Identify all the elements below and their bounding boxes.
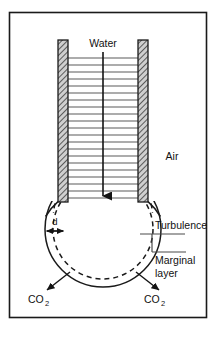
label-marginal-layer-line1: Marginal bbox=[155, 254, 195, 266]
label-marginal-layer-line2: layer bbox=[155, 267, 178, 279]
figure-diagram: Water Air Turbulence Marginal layer d CO… bbox=[0, 0, 219, 337]
diagram-canvas: Water Air Turbulence Marginal layer d CO… bbox=[0, 0, 219, 337]
label-co2-left-text: CO bbox=[28, 293, 44, 305]
label-co2-left-subscript: 2 bbox=[45, 299, 49, 308]
label-turbulence: Turbulence bbox=[155, 219, 207, 231]
label-co2-right-text: CO bbox=[144, 293, 160, 305]
label-co2-right-subscript: 2 bbox=[161, 299, 165, 308]
label-air: Air bbox=[166, 150, 179, 162]
label-thickness-d: d bbox=[52, 216, 57, 227]
label-water: Water bbox=[89, 37, 117, 49]
tube-right-wall bbox=[138, 40, 148, 202]
tube-left-wall bbox=[58, 40, 68, 202]
